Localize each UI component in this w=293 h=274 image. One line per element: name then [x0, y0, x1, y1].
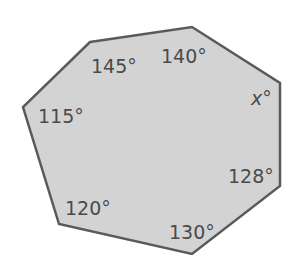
- angle-label-top-right: 140°: [161, 45, 207, 67]
- angle-label-bottom-left: 120°: [65, 197, 111, 219]
- angle-label-bottom: 130°: [169, 221, 215, 243]
- angle-variable-x: x: [250, 87, 263, 109]
- degree-symbol: °: [262, 87, 272, 109]
- angle-label-left: 115°: [38, 105, 84, 127]
- heptagon-shape: [23, 27, 280, 254]
- angle-label-right-lower: 128°: [228, 165, 274, 187]
- heptagon-diagram: 145° 140° x° 115° 128° 120° 130°: [0, 0, 293, 274]
- angle-label-top-left: 145°: [91, 55, 137, 77]
- angle-label-right-upper: x°: [250, 87, 272, 109]
